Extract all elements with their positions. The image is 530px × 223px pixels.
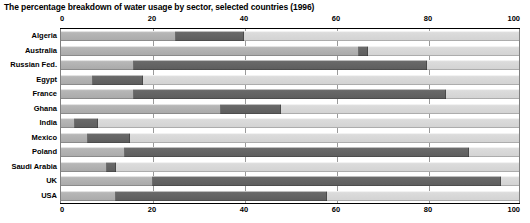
stacked-bar bbox=[61, 176, 519, 186]
bar-segment-domestic bbox=[61, 133, 88, 143]
bar-segment-domestic bbox=[61, 46, 359, 56]
bar-segment-agriculture bbox=[98, 118, 519, 128]
tick-bottom-label: 0 bbox=[60, 205, 64, 214]
y-axis-category-labels: AlgeriaAustraliaRussian Fed.EgyptFranceG… bbox=[0, 29, 57, 203]
stacked-bar bbox=[61, 133, 519, 143]
bar-segment-domestic bbox=[61, 147, 125, 157]
bar-segment-agriculture bbox=[327, 191, 519, 201]
bar-segment-industry bbox=[153, 176, 501, 186]
stacked-bar bbox=[61, 118, 519, 128]
category-label: Ghana bbox=[0, 104, 57, 114]
stacked-bar bbox=[61, 46, 519, 56]
bar-segment-domestic bbox=[61, 191, 116, 201]
bar-segment-agriculture bbox=[281, 104, 519, 114]
bar-segment-agriculture bbox=[244, 31, 519, 41]
category-label: France bbox=[0, 89, 57, 99]
stacked-bar bbox=[61, 60, 519, 70]
bar-row[interactable] bbox=[61, 147, 519, 157]
category-label: Algeria bbox=[0, 31, 57, 41]
tick-bottom-label: 60 bbox=[332, 205, 340, 214]
bar-segment-agriculture bbox=[130, 133, 519, 143]
tick-bottom-label: 20 bbox=[148, 205, 156, 214]
bar-segment-industry bbox=[134, 60, 427, 70]
bar-segment-industry bbox=[221, 104, 281, 114]
tick-bottom-label: 40 bbox=[240, 205, 248, 214]
bar-segment-industry bbox=[75, 118, 98, 128]
bar-segment-domestic bbox=[61, 162, 107, 172]
stacked-bar bbox=[61, 89, 519, 99]
bar-segment-domestic bbox=[61, 31, 176, 41]
bar-segment-agriculture bbox=[446, 89, 519, 99]
bar-row[interactable] bbox=[61, 104, 519, 114]
bar-row[interactable] bbox=[61, 191, 519, 201]
category-label: USA bbox=[0, 191, 57, 201]
bar-segment-industry bbox=[88, 133, 129, 143]
bar-row[interactable] bbox=[61, 176, 519, 186]
stacked-bar bbox=[61, 31, 519, 41]
chart-container: The percentage breakdown of water usage … bbox=[0, 0, 530, 223]
category-label: Australia bbox=[0, 46, 57, 56]
tick-top-label: 80 bbox=[424, 14, 432, 23]
bar-row[interactable] bbox=[61, 60, 519, 70]
bar-row[interactable] bbox=[61, 46, 519, 56]
x-axis-top: 020406080100 bbox=[60, 15, 520, 29]
bar-rows bbox=[61, 29, 519, 203]
tick-top-label: 20 bbox=[148, 14, 156, 23]
bar-segment-domestic bbox=[61, 60, 134, 70]
chart-title: The percentage breakdown of water usage … bbox=[4, 2, 314, 12]
bar-segment-industry bbox=[93, 75, 143, 85]
bar-segment-agriculture bbox=[116, 162, 519, 172]
stacked-bar bbox=[61, 191, 519, 201]
category-label: UK bbox=[0, 176, 57, 186]
bar-segment-industry bbox=[359, 46, 368, 56]
bar-row[interactable] bbox=[61, 133, 519, 143]
bar-segment-industry bbox=[134, 89, 445, 99]
bar-row[interactable] bbox=[61, 75, 519, 85]
bar-segment-domestic bbox=[61, 89, 134, 99]
bar-segment-agriculture bbox=[143, 75, 519, 85]
stacked-bar bbox=[61, 75, 519, 85]
stacked-bar bbox=[61, 147, 519, 157]
category-label: Mexico bbox=[0, 133, 57, 143]
bar-row[interactable] bbox=[61, 31, 519, 41]
category-label: Poland bbox=[0, 147, 57, 157]
bar-segment-agriculture bbox=[501, 176, 519, 186]
axis-line-bottom bbox=[60, 203, 520, 204]
bar-segment-domestic bbox=[61, 118, 75, 128]
bar-segment-domestic bbox=[61, 104, 221, 114]
bar-segment-domestic bbox=[61, 176, 153, 186]
tick-bottom-label: 100 bbox=[507, 205, 520, 214]
bar-segment-agriculture bbox=[469, 147, 519, 157]
x-axis-bottom: 020406080100 bbox=[60, 203, 520, 217]
tick-top-label: 100 bbox=[507, 14, 520, 23]
bar-segment-agriculture bbox=[368, 46, 519, 56]
tick-top-label: 40 bbox=[240, 14, 248, 23]
bar-segment-agriculture bbox=[427, 60, 519, 70]
bar-segment-industry bbox=[107, 162, 116, 172]
stacked-bar bbox=[61, 162, 519, 172]
stacked-bar bbox=[61, 104, 519, 114]
bar-segment-industry bbox=[125, 147, 469, 157]
bar-segment-industry bbox=[116, 191, 327, 201]
category-label: Saudi Arabia bbox=[0, 162, 57, 172]
bar-row[interactable] bbox=[61, 118, 519, 128]
category-label: Russian Fed. bbox=[0, 60, 57, 70]
tick-bottom-label: 80 bbox=[424, 205, 432, 214]
tick-top-label: 60 bbox=[332, 14, 340, 23]
plot-area bbox=[60, 29, 520, 203]
bar-row[interactable] bbox=[61, 89, 519, 99]
category-label: Egypt bbox=[0, 75, 57, 85]
category-label: India bbox=[0, 118, 57, 128]
bar-row[interactable] bbox=[61, 162, 519, 172]
bar-segment-industry bbox=[176, 31, 245, 41]
tick-top-label: 0 bbox=[60, 14, 64, 23]
bar-segment-domestic bbox=[61, 75, 93, 85]
